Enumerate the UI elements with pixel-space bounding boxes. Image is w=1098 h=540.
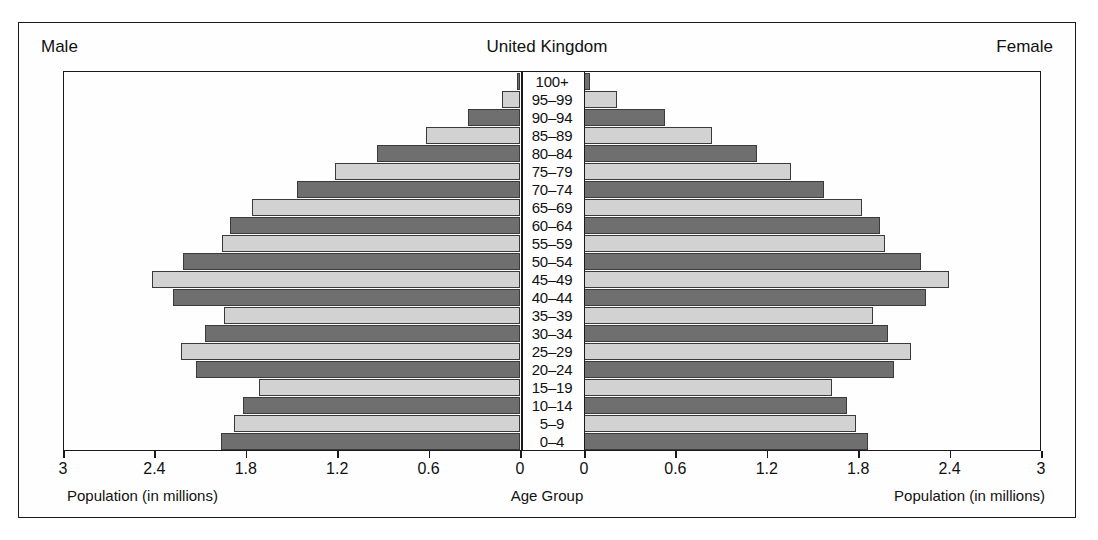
age-group-label: 45–49 xyxy=(520,270,584,288)
female-bar-cell xyxy=(584,180,1040,198)
female-bar-cell xyxy=(584,396,1040,414)
axis-tick-label-left: 0 xyxy=(516,460,525,478)
age-group-label: 60–64 xyxy=(520,216,584,234)
female-bar-cell xyxy=(584,234,1040,252)
female-bar xyxy=(584,361,894,378)
female-bar xyxy=(584,433,868,450)
female-bar xyxy=(584,325,888,342)
pyramid-row: 85–89 xyxy=(64,126,1040,144)
male-bar-cell xyxy=(64,378,520,396)
pyramid-row: 80–84 xyxy=(64,144,1040,162)
axis-tick-left xyxy=(337,451,339,458)
pyramid-row: 45–49 xyxy=(64,270,1040,288)
pyramid-row: 65–69 xyxy=(64,198,1040,216)
female-bar-cell xyxy=(584,288,1040,306)
axis-tick-label-left: 1.2 xyxy=(326,460,348,478)
female-bar-cell xyxy=(584,90,1040,108)
pyramid-row: 75–79 xyxy=(64,162,1040,180)
female-bar-cell xyxy=(584,378,1040,396)
male-bar-cell xyxy=(64,216,520,234)
female-bar xyxy=(584,415,856,432)
age-group-label: 5–9 xyxy=(520,414,584,432)
axis-tick-label-right: 1.8 xyxy=(847,460,869,478)
pyramid-row: 55–59 xyxy=(64,234,1040,252)
male-bar xyxy=(252,199,520,216)
male-bar-cell xyxy=(64,252,520,270)
male-bar xyxy=(196,361,520,378)
age-group-label: 0–4 xyxy=(520,432,584,450)
axis-tick-left xyxy=(429,451,431,458)
age-group-label: 55–59 xyxy=(520,234,584,252)
pyramid-row: 100+ xyxy=(64,72,1040,90)
male-bar xyxy=(297,181,520,198)
axis-tick-label-left: 3 xyxy=(59,460,68,478)
male-bar-cell xyxy=(64,432,520,450)
axis-tick-label-right: 0.6 xyxy=(664,460,686,478)
age-group-label: 90–94 xyxy=(520,108,584,126)
female-side-label: Female xyxy=(996,37,1053,57)
age-group-label: 20–24 xyxy=(520,360,584,378)
female-zero-axis xyxy=(584,72,586,450)
axis-tick-right xyxy=(1041,451,1043,458)
male-bar xyxy=(152,271,520,288)
pyramid-row: 0–4 xyxy=(64,432,1040,450)
age-group-label: 80–84 xyxy=(520,144,584,162)
female-bar xyxy=(584,289,926,306)
male-bar-cell xyxy=(64,90,520,108)
male-bar-cell xyxy=(64,180,520,198)
male-bar-cell xyxy=(64,396,520,414)
axis-tick-left xyxy=(63,451,65,458)
female-bar xyxy=(584,271,949,288)
male-bar xyxy=(243,397,520,414)
male-bar-cell xyxy=(64,234,520,252)
axis-tick-right xyxy=(767,451,769,458)
axis-tick-left xyxy=(520,451,522,458)
male-bar-cell xyxy=(64,270,520,288)
female-bar xyxy=(584,379,832,396)
female-bar xyxy=(584,199,862,216)
male-bar xyxy=(234,415,520,432)
male-bar-cell xyxy=(64,342,520,360)
female-bar xyxy=(584,307,873,324)
pyramid-row: 40–44 xyxy=(64,288,1040,306)
age-group-label: 30–34 xyxy=(520,324,584,342)
male-bar-cell xyxy=(64,126,520,144)
female-bar-cell xyxy=(584,126,1040,144)
pyramid-row: 20–24 xyxy=(64,360,1040,378)
pyramid-row: 95–99 xyxy=(64,90,1040,108)
female-bar xyxy=(584,145,757,162)
axis-tick-label-left: 0.6 xyxy=(417,460,439,478)
age-group-label: 15–19 xyxy=(520,378,584,396)
male-bar-cell xyxy=(64,306,520,324)
male-bar-cell xyxy=(64,414,520,432)
pyramid-row: 50–54 xyxy=(64,252,1040,270)
female-bar xyxy=(584,343,911,360)
female-bar xyxy=(584,91,617,108)
chart-title: United Kingdom xyxy=(19,37,1075,57)
age-group-label: 35–39 xyxy=(520,306,584,324)
male-bar xyxy=(468,109,520,126)
age-group-label: 50–54 xyxy=(520,252,584,270)
pyramid-row: 10–14 xyxy=(64,396,1040,414)
male-bar xyxy=(426,127,520,144)
age-group-label: 70–74 xyxy=(520,180,584,198)
age-group-label: 10–14 xyxy=(520,396,584,414)
female-bar xyxy=(584,181,824,198)
age-group-label: 85–89 xyxy=(520,126,584,144)
axis-tick-label-left: 2.4 xyxy=(143,460,165,478)
female-bar xyxy=(584,163,791,180)
pyramid-row: 15–19 xyxy=(64,378,1040,396)
pyramid-row: 90–94 xyxy=(64,108,1040,126)
pyramid-row: 25–29 xyxy=(64,342,1040,360)
age-group-label: 40–44 xyxy=(520,288,584,306)
male-bar-cell xyxy=(64,198,520,216)
female-bar xyxy=(584,217,880,234)
female-bar xyxy=(584,109,665,126)
female-bar-cell xyxy=(584,144,1040,162)
pyramid-rows: 0–45–910–1415–1920–2425–2930–3435–3940–4… xyxy=(64,72,1040,450)
female-bar xyxy=(584,253,921,270)
axis-tick-left xyxy=(154,451,156,458)
female-bar-cell xyxy=(584,252,1040,270)
pyramid-row: 35–39 xyxy=(64,306,1040,324)
female-bar-cell xyxy=(584,306,1040,324)
